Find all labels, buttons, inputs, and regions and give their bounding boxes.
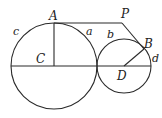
label-b: b: [107, 28, 114, 41]
label-P: P: [120, 7, 130, 21]
label-B: B: [143, 37, 153, 51]
label-c: c: [13, 25, 19, 38]
geometry-diagram: A P B C D a b c d: [0, 0, 162, 118]
label-a: a: [86, 25, 93, 38]
label-d: d: [152, 52, 159, 65]
radius-DB: [124, 49, 144, 66]
label-D: D: [116, 69, 127, 83]
label-C: C: [36, 52, 45, 66]
tangent-PB: [122, 23, 144, 49]
label-A: A: [48, 9, 58, 23]
